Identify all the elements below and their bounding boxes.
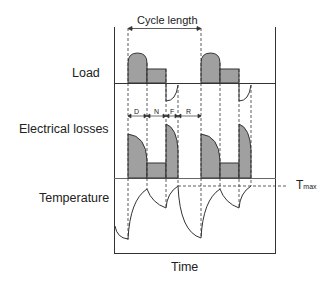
time-axis-label: Time <box>171 260 198 274</box>
temperature-label: Temperature <box>39 191 109 205</box>
phase-f-label: F <box>170 108 174 115</box>
tmax-subscript: max <box>303 183 316 190</box>
phase-d-label: D <box>134 108 139 115</box>
duty-cycle-diagram: Cycle length Load Electrical losses Temp… <box>0 0 336 284</box>
phase-n-label: N <box>154 108 159 115</box>
temperature-curve <box>115 186 251 239</box>
load-waveform <box>128 53 239 83</box>
load-label: Load <box>72 66 100 80</box>
phase-r-label: R <box>186 108 191 115</box>
load-braking <box>166 83 251 101</box>
cycle-length-arrow <box>128 27 201 31</box>
diagram-canvas <box>0 0 336 284</box>
tmax-label: Tmax <box>296 178 317 192</box>
cycle-length-label: Cycle length <box>137 14 198 26</box>
electrical-losses-label: Electrical losses <box>19 122 109 136</box>
losses-waveform <box>128 124 251 178</box>
